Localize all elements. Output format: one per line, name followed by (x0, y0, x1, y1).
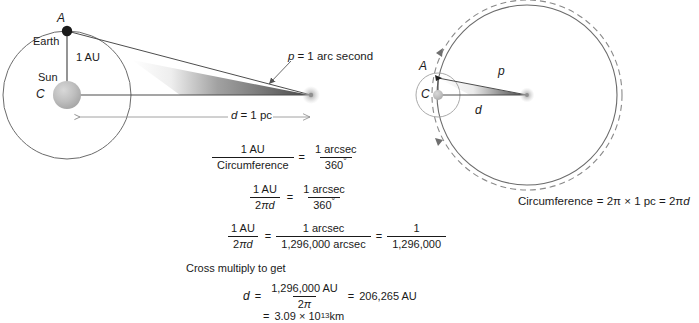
label-point-a-left: A (57, 12, 65, 24)
sun-sphere (53, 81, 81, 109)
label-distance-value: = 1 pc (240, 109, 272, 121)
equation-2-left-numerator: 1 AU (248, 183, 282, 197)
label-point-c-left: C (36, 88, 45, 100)
equation-3-right-fraction: 1 1,296,000 (387, 222, 446, 250)
equation-2-right-denominator-degree: ° (332, 196, 335, 206)
cross-multiply-note: Cross multiply to get (186, 262, 286, 274)
equation-4-denominator: 2π (293, 296, 317, 311)
equation-3-middle-denominator: 1,296,000 arcsec (276, 236, 370, 251)
label-sun: Sun (38, 72, 58, 83)
star-point (309, 93, 313, 97)
equation-2-right-numerator: 1 arcsec (298, 183, 350, 197)
equation-4: d = 1,296,000 AU 2π = 206,265 AU (243, 282, 417, 310)
equation-1-equals: = (294, 151, 310, 163)
equation-1-right-denominator: 360° (320, 157, 352, 172)
equation-2-left-fraction: 1 AU 2πd (248, 183, 282, 211)
label-distance-symbol-right: d (475, 104, 482, 116)
equation-2-right-denominator: 360° (308, 197, 340, 212)
equation-3-equals-second: = (371, 230, 387, 242)
equation-4-equals-second: = (343, 290, 359, 302)
equation-4-numerator: 1,296,000 AU (266, 282, 343, 296)
equation-4-result: 206,265 AU (359, 290, 417, 302)
equation-3-left-denominator: 2πd (228, 236, 258, 251)
equation-3-right-denominator: 1,296,000 (387, 236, 446, 251)
equation-3-right-numerator: 1 (409, 222, 425, 236)
equation-2-left-denominator: 2πd (250, 197, 280, 212)
equation-4-den-pi: π (304, 298, 311, 310)
sun-sphere-right (433, 90, 443, 100)
equation-3-left-fraction: 1 AU 2πd (226, 222, 260, 250)
equation-2-right-fraction: 1 arcsec 360° (298, 183, 350, 211)
equation-4-lhs: d (243, 289, 250, 303)
direction-arrow-upper (436, 48, 443, 57)
equation-2-den-pi: π (261, 199, 268, 211)
equation-2-den-d: d (269, 199, 275, 211)
label-point-a-right: A (419, 60, 427, 72)
parallax-label-leader (269, 61, 291, 84)
label-parallax-value: = 1 arc second (297, 50, 373, 62)
caption-circumference: Circumference= 2π × 1 pc = 2πd (518, 196, 690, 208)
equation-2-equals: = (282, 191, 298, 203)
equation-4-fraction: 1,296,000 AU 2π (266, 282, 343, 310)
label-earth: Earth (33, 36, 59, 47)
label-distance-one-pc: d= 1 pc (231, 110, 272, 122)
equation-1-right-fraction: 1 arcsec 360° (310, 143, 362, 171)
label-point-c-right: C (421, 88, 430, 100)
label-parallax-symbol-right: p (498, 65, 505, 77)
earth-dot (62, 26, 72, 36)
equation-2: 1 AU 2πd = 1 arcsec 360° (248, 183, 350, 211)
caption-circumference-prefix: Circumference (518, 195, 593, 207)
equation-3-middle-numerator: 1 arcsec (298, 222, 350, 236)
label-one-au: 1 AU (76, 52, 100, 63)
derivation-equations: 1 AU Circumference = 1 arcsec 360° 1 AU … (186, 143, 516, 321)
equation-1-left-denominator: Circumference (212, 157, 294, 172)
figure-canvas: A Earth 1 AU Sun C d= 1 pc p= 1 arc seco… (0, 0, 699, 323)
equation-1-left-numerator: 1 AU (236, 143, 270, 157)
equation-5-unit: km (329, 310, 344, 322)
parallax-wedge (132, 60, 310, 95)
equation-1-right-numerator: 1 arcsec (310, 143, 362, 157)
equation-3-left-numerator: 1 AU (226, 222, 260, 236)
label-parallax-arcsecond: p= 1 arc second (288, 51, 373, 63)
star-point-right (525, 93, 529, 97)
equation-3-equals-first: = (260, 230, 276, 242)
equation-1-right-denominator-degree: ° (343, 156, 346, 166)
equation-5-equals: = (258, 310, 274, 322)
equation-1-right-denominator-value: 360 (325, 159, 343, 171)
equation-3-middle-fraction: 1 arcsec 1,296,000 arcsec (276, 222, 370, 250)
label-parallax-symbol: p (288, 50, 294, 62)
caption-circumference-body: = 2π × 1 pc = 2π (597, 195, 684, 207)
equation-3-den-pi: π (239, 238, 246, 250)
equation-4-equals-first: = (250, 290, 266, 302)
label-distance-symbol: d (231, 109, 237, 121)
equation-5-value: 3.09 × 10 (274, 310, 320, 322)
equation-1: 1 AU Circumference = 1 arcsec 360° (212, 143, 362, 171)
equation-2-right-denominator-value: 360 (313, 199, 331, 211)
equation-3-den-d: d (247, 238, 253, 250)
equation-5: = 3.09 × 1013 km (258, 310, 344, 322)
equation-3: 1 AU 2πd = 1 arcsec 1,296,000 arcsec = 1… (226, 222, 446, 250)
equation-1-left-fraction: 1 AU Circumference (212, 143, 294, 171)
caption-circumference-suffix: d (683, 195, 689, 207)
